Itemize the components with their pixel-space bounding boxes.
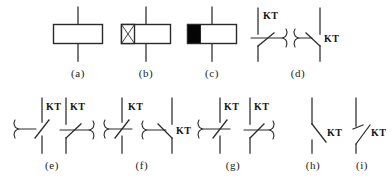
caption-e: (e) (22, 160, 82, 171)
symbol-e-on-delay-contacts: KT KT (12, 96, 104, 154)
d-left-contact: KT (251, 8, 287, 61)
delay-chute-left (294, 29, 312, 47)
symbol-i-instantaneous-no-contact: KT (344, 96, 392, 154)
kt-label: KT (224, 101, 239, 112)
nc-break-bar (35, 120, 49, 138)
caption-f: (f) (112, 160, 172, 171)
delay-chute-right (244, 121, 274, 139)
kt-label: KT (70, 101, 85, 112)
caption-d: (d) (268, 68, 328, 79)
timer-relay-symbol-figure: KT KT (a) (b) (c) (d) KT (0, 0, 392, 184)
caption-g: (g) (203, 160, 263, 171)
movable-blade (306, 33, 320, 46)
g-left-contact: KT (198, 98, 239, 153)
kt-label: KT (128, 101, 143, 112)
symbol-d-on-delay-no-contacts: KT KT (244, 6, 354, 62)
solid-square (188, 25, 201, 44)
coil-rectangle (54, 25, 103, 44)
d-right-contact: KT (294, 8, 339, 61)
symbol-g-off-delay-contacts: KT KT (194, 96, 286, 154)
symbol-b-on-delay-relay-coil (112, 6, 180, 62)
delay-chute-right (251, 29, 287, 47)
kt-label: KT (176, 125, 191, 136)
f-left-contact: KT (104, 98, 143, 153)
delay-chute-right (60, 121, 94, 139)
delay-chute-left (142, 121, 166, 139)
movable-blade (258, 33, 274, 46)
symbol-h-instantaneous-nc-contact: KT (296, 96, 348, 154)
kt-label: KT (371, 127, 386, 138)
movable-blade (66, 124, 81, 138)
symbol-a-general-time-relay-coil (44, 6, 112, 62)
symbol-c-off-delay-relay-coil (178, 6, 246, 62)
delay-chute-right (104, 120, 132, 138)
kt-label: KT (324, 33, 339, 44)
delay-chute-left (14, 120, 36, 138)
kt-label: KT (46, 101, 61, 112)
kt-label: KT (254, 101, 269, 112)
contact-bridge (353, 125, 363, 129)
caption-c: (c) (182, 68, 242, 79)
kt-label: KT (327, 127, 342, 138)
kt-label: KT (263, 10, 278, 21)
caption-i: (i) (332, 160, 392, 171)
f-right-contact: KT (142, 98, 191, 153)
movable-blade (158, 124, 172, 138)
e-left-contact: KT (14, 98, 61, 153)
caption-b: (b) (116, 68, 176, 79)
movable-blade (356, 125, 370, 144)
caption-a: (a) (48, 68, 108, 79)
e-right-contact: KT (60, 98, 94, 153)
movable-blade (250, 124, 264, 138)
g-right-contact: KT (244, 98, 274, 153)
symbol-f-off-delay-contacts: KT KT (102, 96, 196, 154)
movable-blade (312, 124, 326, 142)
